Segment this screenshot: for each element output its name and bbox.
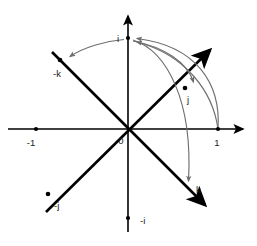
rotation-arcs-group (70, 39, 218, 182)
label-j: j (186, 94, 189, 105)
point-marker-j (183, 86, 188, 91)
arc-from-i-to-minus-k (70, 40, 124, 57)
point-marker-i (126, 36, 130, 40)
label-minus-j: -j (54, 200, 59, 211)
diagram-canvas: -1 1 i -i j -j k -k 0 (0, 0, 257, 246)
label-minus-i: -i (140, 215, 145, 226)
label-k: k (196, 184, 201, 195)
point-marker-minus-one (34, 127, 38, 131)
label-minus-k: -k (53, 68, 61, 79)
point-marker-minus-j (46, 192, 51, 197)
point-marker-minus-k (58, 58, 63, 63)
point-marker-minus-i (126, 216, 130, 220)
label-i: i (117, 33, 119, 44)
point-marker-one (216, 127, 220, 131)
quaternion-diagram: -1 1 i -i j -j k -k 0 (0, 0, 257, 246)
label-one: 1 (214, 137, 219, 148)
label-origin: 0 (118, 135, 123, 146)
label-minus-one: -1 (27, 137, 35, 148)
